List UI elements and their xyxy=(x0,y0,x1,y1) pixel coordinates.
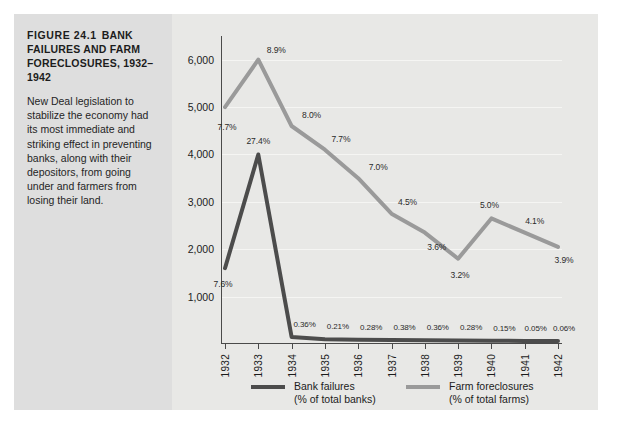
chart-lines xyxy=(221,36,562,344)
x-axis-tick xyxy=(458,344,459,349)
data-label-bank-failures: 0.38% xyxy=(393,322,415,331)
data-label-bank-failures: 0.28% xyxy=(460,323,482,332)
x-axis-tick-label: 1940 xyxy=(486,354,497,377)
legend-label: Farm foreclosures(% of total farms) xyxy=(449,380,534,406)
x-axis-tick-label: 1932 xyxy=(220,354,231,377)
data-label-bank-failures: 27.4% xyxy=(246,136,270,146)
data-label-bank-failures: 0.36% xyxy=(427,323,449,332)
data-label-bank-failures: 0.06% xyxy=(553,324,575,333)
x-axis-tick xyxy=(558,344,559,349)
x-axis-tick xyxy=(392,344,393,349)
series-line-bank-failures xyxy=(225,155,558,342)
x-axis-tick-label: 1942 xyxy=(553,354,564,377)
legend-item: Farm foreclosures(% of total farms) xyxy=(406,380,534,406)
data-label-farm-foreclosures: 3.2% xyxy=(451,270,470,280)
series-line-farm-foreclosures xyxy=(225,60,558,259)
x-axis-tick-label: 1934 xyxy=(287,354,298,377)
chart-region: 1,0002,0003,0004,0005,0006,000 193219331… xyxy=(172,14,598,410)
legend-series-name: Bank failures xyxy=(294,380,376,393)
plot-area: 1,0002,0003,0004,0005,0006,000 193219331… xyxy=(221,36,562,344)
x-axis-tick xyxy=(292,344,293,349)
data-label-farm-foreclosures: 3.9% xyxy=(555,255,574,265)
data-label-farm-foreclosures: 5.0% xyxy=(480,200,499,210)
x-axis-tick xyxy=(325,344,326,349)
legend-item: Bank failures(% of total banks) xyxy=(251,380,376,406)
x-axis-tick xyxy=(525,344,526,349)
y-axis-tick-label: 6,000 xyxy=(188,54,214,66)
y-axis-tick-label: 2,000 xyxy=(188,243,214,255)
figure-caption-panel: FIGURE 24.1 BANK FAILURES AND FARM FOREC… xyxy=(14,14,172,410)
legend-series-name: Farm foreclosures xyxy=(449,380,534,393)
data-label-farm-foreclosures: 7.7% xyxy=(218,122,237,132)
x-axis-tick xyxy=(258,344,259,349)
legend-series-unit: (% of total farms) xyxy=(449,393,534,406)
figure-caption-text: New Deal legislation to stabilize the ec… xyxy=(27,94,159,208)
x-axis-tick-label: 1939 xyxy=(453,354,464,377)
y-axis-tick-label: 5,000 xyxy=(188,101,214,113)
x-axis-tick-label: 1941 xyxy=(520,354,531,377)
x-axis-tick-label: 1936 xyxy=(353,354,364,377)
data-label-bank-failures: 0.36% xyxy=(294,319,316,328)
y-axis-tick-label: 1,000 xyxy=(188,291,214,303)
figure-title: FIGURE 24.1 BANK FAILURES AND FARM FOREC… xyxy=(27,28,159,84)
figure-number: FIGURE 24.1 xyxy=(27,29,97,41)
data-label-bank-failures: 0.28% xyxy=(360,322,382,331)
data-label-farm-foreclosures: 4.1% xyxy=(525,216,544,226)
y-axis-tick-label: 3,000 xyxy=(188,196,214,208)
x-axis-tick-label: 1935 xyxy=(320,354,331,377)
data-label-farm-foreclosures: 4.5% xyxy=(398,197,417,207)
x-axis-tick-label: 1937 xyxy=(387,354,398,377)
legend-series-unit: (% of total banks) xyxy=(294,393,376,406)
legend-color-swatch xyxy=(251,385,285,389)
legend-color-swatch xyxy=(406,385,440,389)
x-axis-tick xyxy=(425,344,426,349)
y-axis-tick-label: 4,000 xyxy=(188,148,214,160)
x-axis-tick xyxy=(225,344,226,349)
data-label-bank-failures: 0.05% xyxy=(525,323,547,332)
x-axis-tick xyxy=(358,344,359,349)
x-axis-tick-label: 1938 xyxy=(420,354,431,377)
data-label-bank-failures: 0.21% xyxy=(327,322,349,331)
data-label-farm-foreclosures: 3.6% xyxy=(427,242,446,252)
figure-frame: FIGURE 24.1 BANK FAILURES AND FARM FOREC… xyxy=(14,14,598,410)
data-label-farm-foreclosures: 8.0% xyxy=(302,110,321,120)
x-axis-tick xyxy=(491,344,492,349)
x-axis-tick-label: 1933 xyxy=(253,354,264,377)
data-label-farm-foreclosures: 7.7% xyxy=(331,134,350,144)
data-label-farm-foreclosures: 7.0% xyxy=(369,162,388,172)
data-label-farm-foreclosures: 8.9% xyxy=(267,45,286,55)
data-label-bank-failures: 7.6% xyxy=(214,279,233,289)
chart-legend: Bank failures(% of total banks)Farm fore… xyxy=(221,380,562,408)
legend-label: Bank failures(% of total banks) xyxy=(294,380,376,406)
data-label-bank-failures: 0.15% xyxy=(493,323,515,332)
